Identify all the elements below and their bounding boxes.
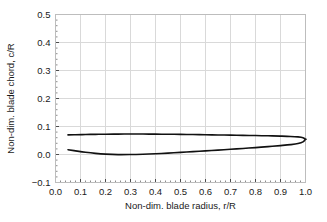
x-tick-label: 0.6: [199, 186, 212, 197]
y-tick-label: 0.3: [37, 65, 50, 76]
y-tick-label: 0.2: [37, 93, 50, 104]
x-tick-label: 1.0: [299, 186, 312, 197]
x-tick-label: 0.7: [224, 186, 237, 197]
y-tick-label: 0.0: [37, 149, 50, 160]
y-tick-label: −0.1: [32, 177, 51, 188]
x-tick-label: 0.3: [124, 186, 137, 197]
y-tick-label: 0.1: [37, 121, 50, 132]
x-tick-label: 0.8: [249, 186, 262, 197]
x-tick-label: 0.5: [174, 186, 187, 197]
x-tick-label: 0.2: [99, 186, 112, 197]
y-tick-label: 0.5: [37, 9, 50, 20]
x-tick-label: 0.1: [74, 186, 87, 197]
x-axis-title: Non-dim. blade radius, r/R: [125, 200, 236, 211]
x-tick-label: 0.0: [49, 186, 62, 197]
y-tick-label: 0.4: [37, 37, 50, 48]
x-tick-label: 0.4: [149, 186, 162, 197]
y-axis-title: Non-dim. blade chord, c/R: [5, 43, 16, 153]
blade-planform-chart: 0.00.10.20.30.40.50.60.70.80.91.0 −0.10.…: [0, 0, 327, 222]
chart-figure: 0.00.10.20.30.40.50.60.70.80.91.0 −0.10.…: [0, 0, 327, 222]
x-tick-label: 0.9: [274, 186, 287, 197]
